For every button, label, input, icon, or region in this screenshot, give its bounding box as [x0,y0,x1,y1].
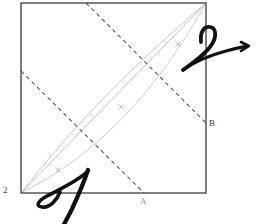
label-2: 2 [3,186,8,195]
geometry-figure [0,0,257,224]
tick-mark-2 [116,102,126,112]
tick-marks [53,39,183,175]
handwritten-mark-2-with-arrow [183,27,249,70]
handwritten-mark-A [38,170,88,224]
label-A: A [140,197,147,206]
figure-canvas: 2 A B [0,0,257,224]
label-B: B [209,119,215,128]
